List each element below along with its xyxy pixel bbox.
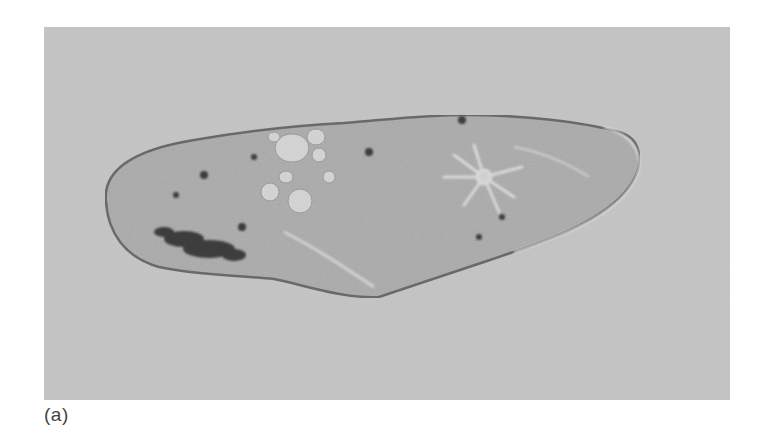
panel-label: (a) bbox=[44, 404, 69, 426]
cell-illustration bbox=[44, 27, 730, 400]
micrograph-image bbox=[44, 27, 730, 400]
